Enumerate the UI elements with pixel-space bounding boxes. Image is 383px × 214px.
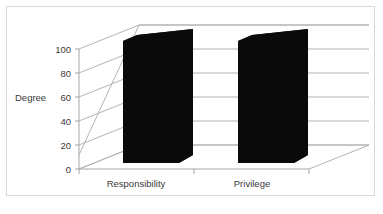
chart-frame: 100 80 60 40 20 0 Degree Responsibility … bbox=[6, 6, 375, 196]
category-label-responsibility: Responsibility bbox=[107, 178, 166, 189]
y-tick-label-100: 100 bbox=[55, 44, 71, 55]
y-tick-label-80: 80 bbox=[60, 68, 71, 79]
bar-chart-3d: 100 80 60 40 20 0 Degree Responsibility … bbox=[7, 7, 376, 197]
y-tick-label-0: 0 bbox=[66, 164, 71, 175]
bar-privilege-body bbox=[238, 29, 308, 163]
bar-privilege[interactable] bbox=[238, 29, 308, 163]
y-tick-label-60: 60 bbox=[60, 92, 71, 103]
y-axis-title: Degree bbox=[15, 92, 46, 103]
y-tick-label-20: 20 bbox=[60, 140, 71, 151]
bar-responsibility[interactable] bbox=[123, 29, 193, 163]
bar-responsibility-body bbox=[123, 29, 193, 163]
category-label-privilege: Privilege bbox=[234, 178, 270, 189]
y-tick-label-40: 40 bbox=[60, 116, 71, 127]
gridlines bbox=[79, 25, 369, 155]
plot-area-3d bbox=[75, 25, 369, 174]
floor-right-edge bbox=[309, 145, 369, 169]
